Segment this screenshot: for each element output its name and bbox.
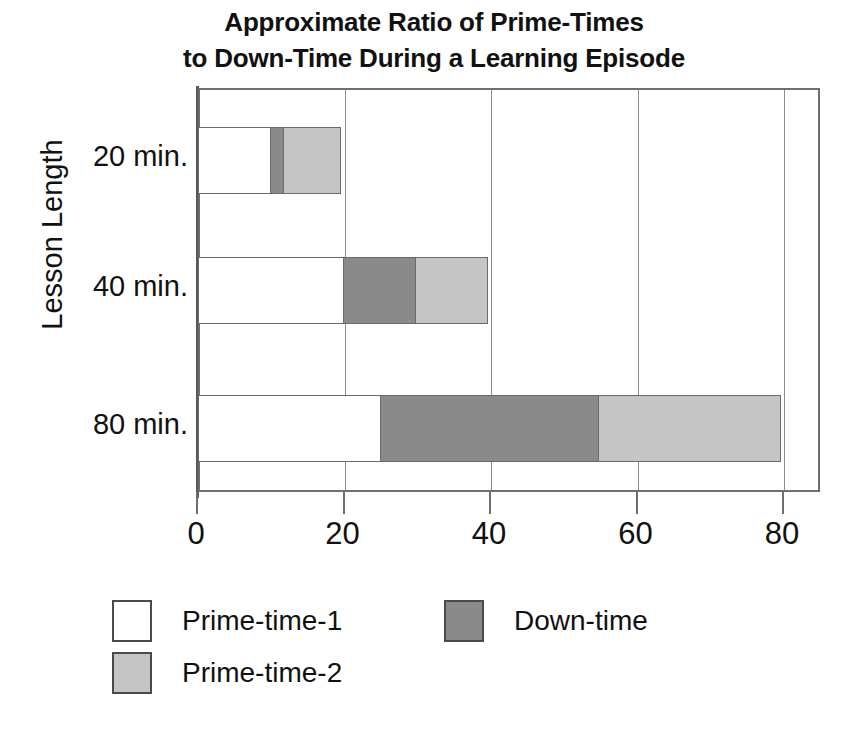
legend-item: Down-time [444,600,648,642]
x-tick-40 [489,492,491,514]
bar-segment [198,395,381,462]
chart-legend: Prime-time-1Prime-time-2Down-time [112,600,732,700]
bar-segment [598,395,781,462]
legend-item: Prime-time-2 [112,652,342,694]
x-tick-label-20: 20 [303,516,383,552]
x-tick-label-60: 60 [596,516,676,552]
bar-segment [343,257,416,324]
bar-segment [198,127,271,194]
legend-swatch [112,600,152,642]
legend-label: Prime-time-1 [182,605,342,637]
y-axis-label-1: 20 min. [38,140,188,173]
x-tick-60 [636,492,638,514]
x-tick-label-0: 0 [156,516,236,552]
legend-item: Prime-time-1 [112,600,342,642]
bar-segment [283,127,342,194]
x-tick-label-80: 80 [742,516,822,552]
chart-title-line-2: to Down-Time During a Learning Episode [0,40,868,76]
x-tick-20 [343,492,345,514]
y-axis-label-2: 40 min. [38,270,188,303]
legend-swatch [444,600,484,642]
x-tick-0 [196,492,198,514]
bar-segment [198,257,345,324]
plot-area [198,88,820,492]
bar-segment [415,257,488,324]
x-tick-80 [782,492,784,514]
legend-label: Down-time [514,605,648,637]
legend-label: Prime-time-2 [182,657,342,689]
bar-row [198,127,341,194]
bar-row [198,395,781,462]
bar-segment [380,395,600,462]
legend-swatch [112,652,152,694]
chart-title: Approximate Ratio of Prime-Times to Down… [0,4,868,76]
y-axis-category-labels: 20 min.40 min.80 min. [30,88,188,492]
x-tick-label-40: 40 [449,516,529,552]
y-axis-label-3: 80 min. [38,408,188,441]
chart-title-line-1: Approximate Ratio of Prime-Times [0,4,868,40]
bar-row [198,257,488,324]
gridline-80 [784,90,785,490]
